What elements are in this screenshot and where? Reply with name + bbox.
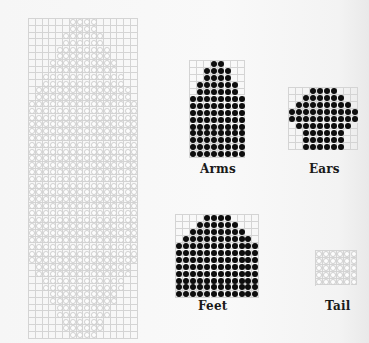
open-stitch-icon: [57, 135, 63, 141]
open-stitch-icon: [57, 223, 63, 229]
open-stitch-icon: [104, 149, 110, 155]
filled-stitch-icon: [197, 117, 203, 123]
open-stitch-icon: [84, 149, 90, 155]
open-stitch-icon: [84, 196, 90, 202]
open-stitch-icon: [43, 74, 49, 80]
filled-stitch-icon: [331, 116, 337, 122]
open-stitch-icon: [43, 217, 49, 223]
filled-stitch-icon: [239, 257, 245, 263]
open-stitch-icon: [84, 251, 90, 257]
grid-cell: [29, 46, 36, 53]
grid-cell: [43, 26, 50, 33]
open-stitch-icon: [77, 251, 83, 257]
open-stitch-icon: [57, 230, 63, 236]
open-stitch-icon: [43, 264, 49, 270]
open-stitch-icon: [104, 305, 110, 311]
open-stitch-icon: [84, 203, 90, 209]
ears-label: Ears: [309, 162, 340, 176]
grid-cell: [131, 73, 138, 80]
open-stitch-icon: [91, 244, 97, 250]
grid-cell: [289, 129, 296, 136]
grid-cell: [36, 19, 43, 26]
grid-cell: [29, 325, 36, 332]
open-stitch-icon: [70, 135, 76, 141]
open-stitch-icon: [91, 74, 97, 80]
open-stitch-icon: [57, 189, 63, 195]
grid-cell: [351, 129, 358, 136]
grid-cell: [131, 284, 138, 291]
open-stitch-icon: [104, 312, 110, 318]
open-stitch-icon: [91, 278, 97, 284]
grid-cell: [36, 39, 43, 46]
filled-stitch-icon: [232, 96, 238, 102]
filled-stitch-icon: [211, 271, 217, 277]
filled-stitch-icon: [317, 130, 323, 136]
open-stitch-icon: [111, 183, 117, 189]
open-stitch-icon: [84, 285, 90, 291]
filled-stitch-icon: [310, 130, 316, 136]
open-stitch-icon: [77, 217, 83, 223]
open-stitch-icon: [91, 183, 97, 189]
filled-stitch-icon: [211, 110, 217, 116]
grid-cell: [245, 222, 252, 229]
grid-cell: [344, 95, 351, 102]
grid-cell: [124, 53, 131, 60]
grid-cell: [296, 136, 303, 143]
filled-stitch-icon: [204, 257, 210, 263]
open-stitch-icon: [84, 101, 90, 107]
open-stitch-icon: [57, 162, 63, 168]
open-stitch-icon: [70, 305, 76, 311]
open-stitch-icon: [91, 135, 97, 141]
filled-stitch-icon: [211, 278, 217, 284]
open-stitch-icon: [70, 47, 76, 53]
grid-cell: [289, 143, 296, 150]
open-stitch-icon: [91, 217, 97, 223]
open-stitch-icon: [77, 81, 83, 87]
filled-stitch-icon: [211, 257, 217, 263]
grid-cell: [117, 325, 124, 332]
open-stitch-icon: [91, 271, 97, 277]
grid-cell: [245, 229, 252, 236]
open-stitch-icon: [36, 169, 42, 175]
grid-cell: [56, 318, 63, 325]
open-stitch-icon: [43, 196, 49, 202]
open-stitch-icon: [70, 183, 76, 189]
grid-cell: [43, 298, 50, 305]
grid-cell: [43, 60, 50, 67]
filled-stitch-icon: [176, 278, 182, 284]
filled-stitch-icon: [338, 109, 344, 115]
filled-stitch-icon: [211, 96, 217, 102]
grid-cell: [124, 26, 131, 33]
filled-stitch-icon: [324, 130, 330, 136]
grid-cell: [124, 305, 131, 312]
open-stitch-icon: [91, 121, 97, 127]
grid-cell: [43, 39, 50, 46]
open-stitch-icon: [125, 108, 131, 114]
open-stitch-icon: [91, 325, 97, 331]
open-stitch-icon: [84, 128, 90, 134]
open-stitch-icon: [63, 115, 69, 121]
filled-stitch-icon: [218, 271, 224, 277]
open-stitch-icon: [50, 60, 56, 66]
grid-cell: [124, 80, 131, 87]
tail-chart: [315, 250, 357, 286]
grid-cell: [111, 53, 118, 60]
filled-stitch-icon: [232, 243, 238, 249]
open-stitch-icon: [70, 203, 76, 209]
grid-cell: [49, 305, 56, 312]
open-stitch-icon: [97, 319, 103, 325]
open-stitch-icon: [84, 142, 90, 148]
filled-stitch-icon: [225, 257, 231, 263]
open-stitch-icon: [84, 176, 90, 182]
open-stitch-icon: [29, 115, 35, 121]
open-stitch-icon: [43, 244, 49, 250]
open-stitch-icon: [111, 264, 117, 270]
grid-cell: [131, 80, 138, 87]
grid-cell: [111, 19, 118, 26]
open-stitch-icon: [125, 223, 131, 229]
open-stitch-icon: [91, 189, 97, 195]
open-stitch-icon: [91, 47, 97, 53]
open-stitch-icon: [104, 278, 110, 284]
grid-cell: [36, 291, 43, 298]
filled-stitch-icon: [331, 144, 337, 150]
